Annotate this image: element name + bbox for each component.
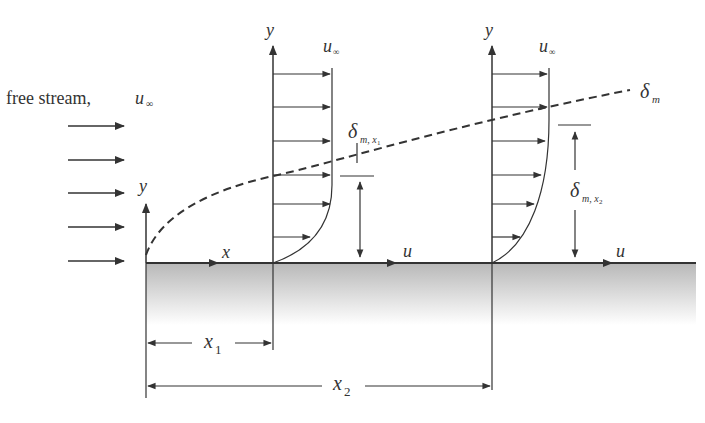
svg-text:1: 1 (215, 342, 222, 357)
delta-m-label: δ (640, 80, 650, 102)
svg-text:2: 2 (599, 198, 603, 206)
svg-text:m, x: m, x (360, 134, 377, 145)
u-label-2: u (616, 241, 625, 261)
svg-text:y: y (264, 20, 274, 40)
svg-text:y: y (483, 20, 493, 40)
boundary-layer-diagram: free stream, u ∞ y x δ m y u ∞ (0, 0, 705, 423)
velocity-profile-x2: y u ∞ (483, 20, 555, 390)
delta-mx1-label: δ (348, 120, 358, 142)
svg-text:1: 1 (377, 139, 381, 147)
delta-m-sub: m (652, 93, 660, 105)
free-stream-label: free stream, (6, 88, 91, 108)
delta-mx2-label: δ (570, 179, 580, 201)
svg-text:u: u (539, 36, 548, 56)
svg-text:m, x: m, x (582, 193, 599, 204)
svg-text:2: 2 (344, 384, 351, 399)
svg-text:∞: ∞ (333, 47, 339, 57)
flat-plate (146, 263, 696, 325)
free-stream-symbol: u (135, 88, 144, 108)
boundary-layer-edge (146, 90, 630, 255)
y-axis-label: y (137, 176, 147, 196)
free-stream-arrows (68, 126, 124, 261)
x-axis-label: x (221, 242, 230, 262)
u-label-1: u (403, 241, 412, 261)
delta-mx1-dimension (340, 143, 374, 257)
infinity-sub: ∞ (146, 98, 153, 109)
x1-label: x (203, 330, 213, 352)
svg-text:∞: ∞ (549, 47, 555, 57)
svg-text:u: u (323, 36, 332, 56)
x2-label: x (332, 372, 342, 394)
